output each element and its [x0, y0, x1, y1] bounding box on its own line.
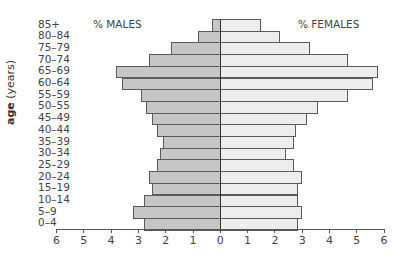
x-tick: [56, 229, 57, 233]
x-tick-label: 3: [295, 234, 309, 247]
age-group-label: 10–14: [38, 194, 78, 206]
x-tick-label: 5: [350, 234, 364, 247]
x-tick: [247, 229, 248, 233]
x-tick: [384, 229, 385, 233]
x-tick: [302, 229, 303, 233]
x-tick-label: 1: [186, 234, 200, 247]
x-tick-label: 6: [377, 234, 391, 247]
x-tick-label: 0: [213, 234, 227, 247]
population-pyramid-chart: age (years) % MALES % FEMALES 85+80–8475…: [0, 0, 402, 259]
x-tick-label: 1: [241, 234, 255, 247]
x-tick-label: 6: [50, 234, 64, 247]
age-group-label: 75–79: [38, 42, 78, 54]
x-tick-label: 2: [159, 234, 173, 247]
age-group-label: 25–29: [38, 159, 78, 171]
x-tick: [329, 229, 330, 233]
x-tick: [356, 229, 357, 233]
x-tick: [165, 229, 166, 233]
x-tick-label: 4: [323, 234, 337, 247]
age-group-label: 45–49: [38, 112, 78, 124]
x-tick: [220, 229, 221, 233]
x-tick: [274, 229, 275, 233]
x-tick: [193, 229, 194, 233]
x-tick: [138, 229, 139, 233]
x-tick-label: 3: [131, 234, 145, 247]
center-axis-line: [220, 19, 221, 230]
x-tick-label: 2: [268, 234, 282, 247]
x-tick: [83, 229, 84, 233]
males-label: % MALES: [93, 18, 142, 30]
x-tick: [111, 229, 112, 233]
x-tick-label: 5: [77, 234, 91, 247]
age-group-label: 40–44: [38, 124, 78, 136]
females-label: % FEMALES: [298, 18, 359, 30]
y-axis-label: age (years): [4, 60, 17, 125]
age-group-label: 0–4: [38, 217, 78, 229]
age-group-label: 60–64: [38, 77, 78, 89]
x-tick-label: 4: [104, 234, 118, 247]
